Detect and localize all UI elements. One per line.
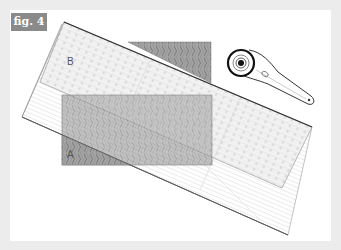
fabric-label-a: A — [67, 149, 74, 160]
figure-label: fig. 4 — [11, 13, 47, 31]
ruler-label-b: B — [67, 56, 74, 67]
quilting-illustration: B A — [0, 0, 341, 250]
